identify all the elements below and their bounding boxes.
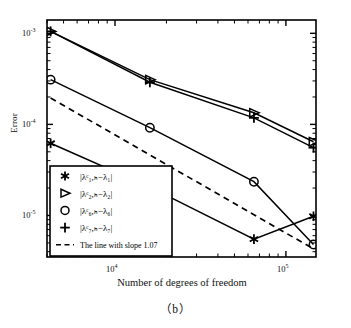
x-tick-label-1e4: 104 [106, 263, 118, 274]
legend-label: |λᶜ₁,ₕ−λ₁| [80, 172, 112, 182]
x-tick-label-1e5: 105 [277, 263, 289, 274]
chart-legend: |λᶜ₁,ₕ−λ₁||λᶜ₂,ₕ−λ₂||λᶜ₆,ₕ−λ₆||λᶜ₇,ₕ−λ₇|… [50, 166, 172, 256]
legend-label: |λᶜ₂,ₕ−λ₂| [80, 189, 112, 199]
y-tick-label-1e-3: 10-3 [22, 27, 36, 38]
x-axis-label: Number of degrees of freedom [47, 277, 317, 288]
legend-label: The line with slope 1.07 [80, 241, 158, 250]
legend-label: |λᶜ₇,ₕ−λ₇| [80, 223, 112, 233]
figure-caption: （b） [0, 300, 351, 316]
legend-label: |λᶜ₆,ₕ−λ₆| [80, 206, 112, 216]
figure-panel-b: |λᶜ₁,ₕ−λ₁||λᶜ₂,ₕ−λ₂||λᶜ₆,ₕ−λ₆||λᶜ₇,ₕ−λ₇|… [0, 0, 351, 328]
y-tick-label-1e-5: 10-5 [22, 209, 36, 220]
y-axis-label: Error [9, 93, 19, 153]
y-tick-label-1e-4: 10-4 [22, 118, 36, 129]
